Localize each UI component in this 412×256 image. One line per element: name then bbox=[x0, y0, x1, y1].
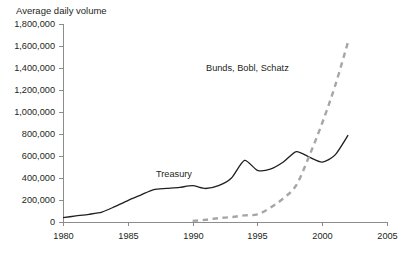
axis-lines bbox=[64, 24, 388, 223]
y-axis-tick-label: 0 bbox=[1, 217, 55, 227]
chart-container: Average daily volume 0200,000400,000600,… bbox=[0, 0, 412, 256]
x-axis-tick-label: 1985 bbox=[107, 231, 151, 241]
y-axis-tick-label: 1,200,000 bbox=[1, 85, 55, 95]
x-axis-tick-label: 1980 bbox=[42, 231, 86, 241]
y-axis-tick-label: 1,800,000 bbox=[1, 19, 55, 29]
y-axis-tick-label: 1,600,000 bbox=[1, 41, 55, 51]
y-axis-tick-label: 800,000 bbox=[1, 129, 55, 139]
y-axis-tick-label: 400,000 bbox=[1, 173, 55, 183]
y-axis-tick-label: 1,000,000 bbox=[1, 107, 55, 117]
series-line-treasury bbox=[63, 135, 348, 218]
y-axis-ticks bbox=[59, 25, 63, 223]
y-axis-tick-label: 200,000 bbox=[1, 195, 55, 205]
x-axis-tick-label: 2005 bbox=[366, 231, 410, 241]
y-axis-tick-label: 1,400,000 bbox=[1, 63, 55, 73]
plot-area bbox=[0, 0, 412, 256]
x-axis-tick-label: 1995 bbox=[236, 231, 280, 241]
series-label-treasury: Treasury bbox=[156, 169, 192, 180]
x-axis-tick-label: 1990 bbox=[172, 231, 216, 241]
x-axis-tick-label: 2000 bbox=[301, 231, 345, 241]
series-label-bunds-bobl-schatz: Bunds, Bobl, Schatz bbox=[206, 63, 289, 74]
y-axis-tick-label: 600,000 bbox=[1, 151, 55, 161]
